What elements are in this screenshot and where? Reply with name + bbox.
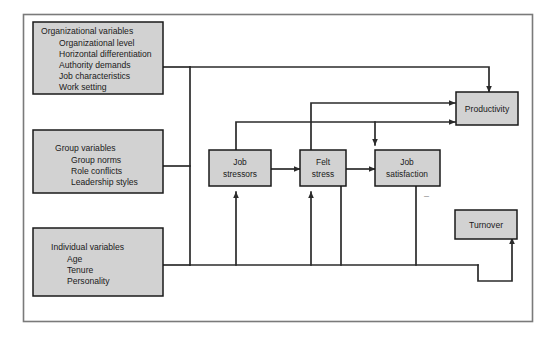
- source-title-group: Group variables: [55, 143, 116, 153]
- source-title-individual: Individual variables: [51, 242, 124, 252]
- source-item: Role conflicts: [71, 166, 122, 176]
- source-item: Job characteristics: [59, 71, 130, 81]
- source-item: Personality: [67, 276, 110, 286]
- negative-sign-annotation: –: [424, 191, 429, 201]
- process-label-job-satisfaction-line2: satisfaction: [386, 169, 428, 179]
- source-item: Authority demands: [59, 60, 131, 70]
- figure-canvas: Organizational variables Organizational …: [0, 0, 553, 340]
- source-box-group[interactable]: Group variables Group norms Role conflic…: [33, 130, 163, 193]
- source-item: Leadership styles: [71, 177, 138, 187]
- source-item: Horizontal differentiation: [59, 49, 152, 59]
- outcome-box-productivity[interactable]: Productivity: [456, 92, 518, 125]
- process-label-job-stressors-line2: stressors: [223, 169, 257, 179]
- source-box-organizational[interactable]: Organizational variables Organizational …: [33, 22, 163, 94]
- process-label-job-stressors-line1: Job: [233, 157, 247, 167]
- source-title-organizational: Organizational variables: [41, 26, 133, 36]
- process-label-felt-stress-line2: stress: [312, 169, 334, 179]
- source-item: Work setting: [59, 82, 107, 92]
- source-item: Tenure: [67, 265, 93, 275]
- outcome-box-turnover[interactable]: Turnover: [455, 210, 517, 239]
- source-item: Group norms: [71, 155, 121, 165]
- process-label-felt-stress-line1: Felt: [316, 157, 331, 167]
- source-item: Age: [67, 254, 83, 264]
- process-box-job-stressors[interactable]: Job stressors: [209, 150, 271, 186]
- outcome-label-productivity: Productivity: [465, 104, 510, 114]
- process-box-felt-stress[interactable]: Felt stress: [300, 150, 346, 186]
- source-item: Organizational level: [59, 38, 135, 48]
- flow-diagram: Organizational variables Organizational …: [0, 0, 553, 340]
- process-box-job-satisfaction[interactable]: Job satisfaction: [375, 150, 440, 186]
- source-box-individual[interactable]: Individual variables Age Tenure Personal…: [33, 228, 163, 296]
- process-label-job-satisfaction-line1: Job: [400, 157, 414, 167]
- outcome-label-turnover: Turnover: [469, 220, 503, 230]
